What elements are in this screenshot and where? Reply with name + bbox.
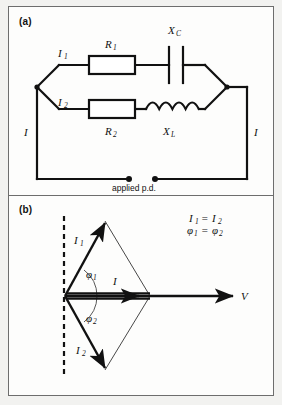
wire-upper-right-diagonal bbox=[205, 65, 227, 87]
phasor-i1-subscript: 1 bbox=[80, 239, 84, 248]
resistor-r2-symbol bbox=[89, 100, 135, 118]
angle-phi1-subscript: 1 bbox=[93, 273, 97, 282]
phasor-i-label: I bbox=[112, 275, 118, 287]
wire-lower-right-diagonal bbox=[205, 87, 227, 109]
annotation-currents-rhs-sub: 2 bbox=[218, 217, 222, 226]
capacitor-xc-label: X bbox=[167, 24, 176, 36]
figure-frame: (a) bbox=[8, 6, 274, 396]
current-total-right-label: I bbox=[253, 126, 259, 138]
annotation-phases-lhs: φ bbox=[187, 224, 193, 236]
parallelogram-side-lower bbox=[105, 296, 150, 370]
current-branch-2-label: I bbox=[57, 96, 63, 108]
left-junction-node bbox=[34, 84, 39, 89]
angle-phi1-label: φ bbox=[86, 268, 92, 280]
annotation-currents-lhs: I bbox=[188, 212, 194, 224]
panel-a-label: (a) bbox=[19, 16, 32, 27]
wire-lower-left-diagonal bbox=[37, 87, 59, 109]
current-branch-2-subscript: 2 bbox=[64, 101, 68, 110]
angle-phi2-label: φ bbox=[86, 312, 92, 324]
phasor-i2-subscript: 2 bbox=[82, 349, 86, 358]
annotation-phases-rhs: φ bbox=[212, 224, 218, 236]
annotation-phases-operator: = bbox=[201, 224, 208, 236]
capacitor-xc-subscript: C bbox=[176, 29, 182, 38]
resistor-r1-label: R bbox=[104, 38, 112, 50]
terminal-right-dot bbox=[152, 176, 158, 182]
phasor-i1-label: I bbox=[73, 234, 79, 246]
annotation-currents-rhs: I bbox=[211, 212, 217, 224]
phasor-v-label: V bbox=[241, 290, 249, 302]
inductor-xl-subscript: L bbox=[170, 130, 175, 139]
phasor-svg: I 1 I 2 I V φ 1 φ 2 I 1 = I 2 φ 1 = φ bbox=[9, 196, 275, 394]
panel-b-label: (b) bbox=[19, 204, 32, 215]
current-branch-1-label: I bbox=[57, 47, 63, 59]
annotation-phases-lhs-sub: 1 bbox=[194, 229, 198, 238]
resistor-r1-subscript: 1 bbox=[113, 43, 117, 52]
current-branch-1-subscript: 1 bbox=[64, 52, 68, 61]
panel-circuit-diagram: (a) bbox=[9, 7, 273, 196]
panel-phasor-diagram: (b) bbox=[9, 196, 273, 395]
circuit-svg: R 1 X C R 2 X L bbox=[9, 7, 275, 195]
inductor-xl-symbol bbox=[146, 103, 199, 110]
angle-phi2-subscript: 2 bbox=[93, 317, 97, 326]
applied-pd-label: applied p.d. bbox=[112, 183, 156, 193]
terminal-left-dot bbox=[126, 176, 132, 182]
inductor-xl-label: X bbox=[162, 125, 171, 137]
resistor-r2-label: R bbox=[104, 125, 112, 137]
figure-root: (a) bbox=[0, 0, 282, 405]
resistor-r2-subscript: 2 bbox=[113, 130, 117, 139]
annotation-currents-lhs-sub: 1 bbox=[195, 217, 199, 226]
annotation-phases-rhs-sub: 2 bbox=[219, 229, 223, 238]
current-total-left-label: I bbox=[23, 126, 29, 138]
phasor-i2-label: I bbox=[75, 344, 81, 356]
resistor-r1-symbol bbox=[89, 56, 135, 74]
right-junction-node bbox=[224, 84, 229, 89]
wire-upper-left-diagonal bbox=[37, 65, 59, 87]
phasor-i1-vector bbox=[65, 223, 105, 296]
parallelogram-side-upper bbox=[105, 221, 150, 296]
annotation-currents-operator: = bbox=[201, 212, 208, 224]
